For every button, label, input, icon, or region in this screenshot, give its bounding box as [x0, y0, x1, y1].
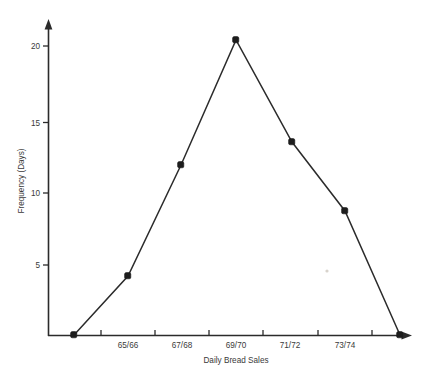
chart-svg: 5 10 15 20 Frequency (Days) 65/66 67/68 …	[0, 0, 422, 378]
y-tick-label-15: 15	[31, 119, 41, 128]
chart-background	[0, 0, 422, 378]
y-axis-title: Frequency (Days)	[17, 148, 26, 213]
data-point-0	[71, 332, 77, 338]
data-point-3	[233, 37, 239, 43]
y-tick-label-20: 20	[31, 42, 41, 51]
frequency-polygon-chart: 5 10 15 20 Frequency (Days) 65/66 67/68 …	[0, 0, 422, 378]
x-axis-title: Daily Bread Sales	[203, 356, 268, 365]
data-point-2	[178, 162, 184, 168]
x-tick-label-67-68: 67/68	[172, 341, 193, 350]
x-tick-label-65-66: 65/66	[118, 341, 139, 350]
scan-speck	[325, 269, 328, 272]
y-tick-label-5: 5	[35, 261, 40, 270]
x-tick-label-73-74: 73/74	[335, 341, 356, 350]
data-point-5	[342, 208, 348, 214]
y-tick-label-10: 10	[31, 189, 41, 198]
data-point-1	[125, 273, 131, 279]
data-point-6	[397, 332, 403, 338]
x-tick-label-69-70: 69/70	[226, 341, 247, 350]
data-point-4	[289, 139, 295, 145]
x-tick-label-71-72: 71/72	[280, 341, 301, 350]
